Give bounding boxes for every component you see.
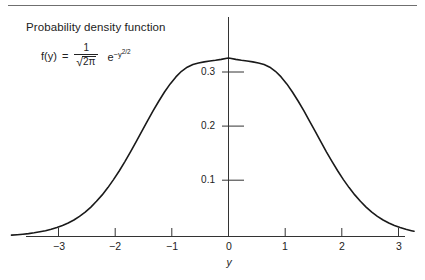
y-tick-label-0.1: 0.1	[189, 174, 215, 185]
y-tick-label-0.3: 0.3	[189, 66, 215, 77]
x-tick-label-2: 2	[328, 240, 356, 252]
normal-density-curve	[12, 58, 415, 235]
x-tick-label-3: 3	[385, 240, 413, 252]
x-tick-label-minus1: −1	[158, 240, 186, 252]
plot-area	[0, 0, 425, 280]
y-tick-label-0.2: 0.2	[189, 120, 215, 131]
x-tick-label-minus2: −2	[101, 240, 129, 252]
y-tick-marks	[222, 72, 244, 180]
x-tick-label-0: 0	[215, 240, 243, 252]
x-axis-title: y	[215, 256, 243, 268]
figure-container: Probability density function f(y) = 1 √2…	[0, 0, 425, 280]
x-tick-label-1: 1	[271, 240, 299, 252]
x-tick-label-minus3: −3	[45, 240, 73, 252]
